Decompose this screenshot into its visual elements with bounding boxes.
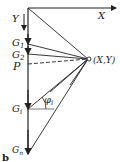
force-diagram: X Y G1 G2 P Gi Gn (X,Y) φi b xyxy=(0,0,120,162)
y-axis-label: Y xyxy=(12,13,20,24)
ray-p-dashed xyxy=(28,59,88,64)
point-node xyxy=(87,57,91,61)
x-axis-label: X xyxy=(97,10,106,21)
ray-lines xyxy=(28,8,88,154)
gi-label: Gi xyxy=(12,103,22,116)
gn-label: Gn xyxy=(12,145,23,156)
panel-label: b xyxy=(2,152,9,162)
p-label: P xyxy=(12,60,21,73)
point-label: (X,Y) xyxy=(93,55,116,65)
